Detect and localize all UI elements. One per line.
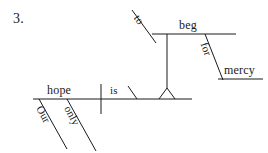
stand-leg-right xyxy=(167,88,175,99)
word-beg: beg xyxy=(179,19,197,31)
word-is: is xyxy=(110,85,118,96)
word-mercy: mercy xyxy=(224,64,255,76)
stand-leg-left xyxy=(159,88,167,99)
item-number: 3. xyxy=(13,12,24,26)
word-hope: hope xyxy=(47,84,71,96)
sentence-diagram-canvas: 3. hope is Our only to beg for mercy xyxy=(0,0,268,153)
complement-slant xyxy=(128,86,137,99)
